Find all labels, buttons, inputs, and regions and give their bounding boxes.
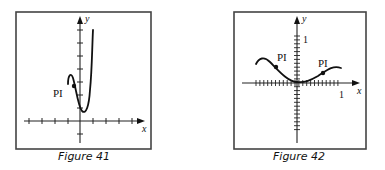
x-tick-label-one: 1 (339, 89, 344, 100)
x-axis-label: x (356, 85, 362, 96)
figure-42-graph: xyPIPI11 (0, 0, 385, 170)
y-tick-label-one: 1 (303, 34, 308, 45)
inflection-point-marker (321, 71, 325, 75)
y-axis-arrow-icon (294, 16, 300, 24)
figure-42-caption: Figure 42 (273, 150, 325, 163)
inflection-point-marker (274, 65, 278, 69)
inflection-point-label: PI (318, 57, 328, 69)
inflection-point-label: PI (277, 51, 287, 63)
figure-frame (234, 12, 366, 149)
y-axis-label: y (301, 13, 307, 24)
